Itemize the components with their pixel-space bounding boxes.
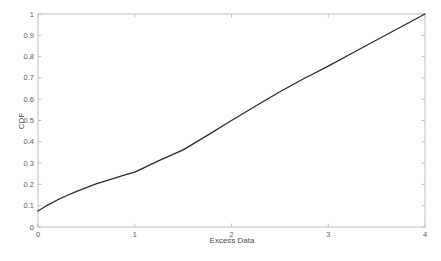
y-tick-label: 0.2: [24, 180, 34, 189]
y-tick-label: 0.9: [24, 31, 34, 40]
x-tick-label: 3: [326, 230, 330, 239]
cdf-figure: 00.10.20.30.40.50.60.70.80.9101234 CDF E…: [0, 0, 441, 261]
y-tick-label: 0.6: [24, 95, 34, 104]
y-tick-label: 0.3: [24, 159, 34, 168]
y-tick-label: 1: [30, 10, 34, 19]
y-tick-label: 0.8: [24, 52, 34, 61]
y-tick-label: 0.1: [24, 201, 34, 210]
y-tick-label: 0: [30, 223, 34, 232]
x-tick-label: 4: [423, 230, 427, 239]
cdf-chart: 00.10.20.30.40.50.60.70.80.9101234: [0, 0, 441, 261]
x-tick-label: 0: [36, 230, 40, 239]
cdf-line: [38, 14, 425, 211]
y-tick-label: 0.7: [24, 73, 34, 82]
y-axis-title: CDF: [18, 113, 26, 129]
x-tick-label: 1: [133, 230, 137, 239]
y-tick-label: 0.4: [24, 137, 34, 146]
x-axis-title: Excess Data: [210, 237, 255, 245]
